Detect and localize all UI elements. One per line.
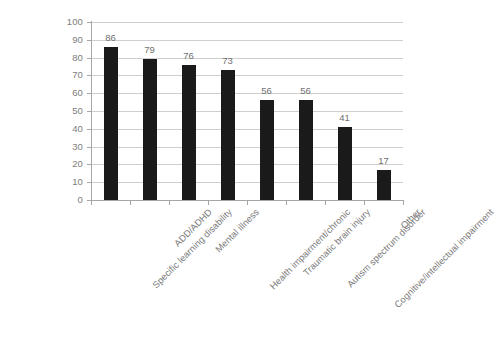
x-tick-mark: [208, 200, 209, 205]
y-tick-label-90: 90: [53, 35, 83, 45]
x-tick-mark: [130, 200, 131, 205]
bar: [299, 100, 313, 200]
x-tick-mark: [403, 200, 404, 205]
bar-value-label: 17: [369, 156, 399, 166]
y-tick-label-70: 70: [53, 70, 83, 80]
y-tick-label-100: 100: [53, 17, 83, 27]
bar-value-label: 56: [291, 86, 321, 96]
gridline-50: [91, 111, 403, 112]
bar: [143, 59, 157, 200]
y-tick-label-10: 10: [53, 177, 83, 187]
bar-value-label: 41: [330, 113, 360, 123]
x-tick-mark: [91, 200, 92, 205]
y-tick-label-40: 40: [53, 124, 83, 134]
bar: [221, 70, 235, 200]
x-tick-mark: [169, 200, 170, 205]
bar: [338, 127, 352, 200]
gridline-70: [91, 75, 403, 76]
gridline-100: [91, 22, 403, 23]
x-tick-mark: [364, 200, 365, 205]
bar: [377, 170, 391, 200]
gridline-10: [91, 182, 403, 183]
gridline-60: [91, 93, 403, 94]
bar-value-label: 86: [96, 33, 126, 43]
gridline-30: [91, 147, 403, 148]
category-label: Health impairment/chronic: [267, 207, 351, 291]
bar-value-label: 79: [135, 45, 165, 55]
bar: [104, 47, 118, 200]
y-axis-line: [91, 21, 92, 201]
gridline-90: [91, 40, 403, 41]
x-tick-mark: [325, 200, 326, 205]
x-tick-mark: [286, 200, 287, 205]
bar-value-label: 73: [213, 56, 243, 66]
y-tick-label-30: 30: [53, 142, 83, 152]
gridline-40: [91, 129, 403, 130]
bar-value-label: 56: [252, 86, 282, 96]
gridline-80: [91, 58, 403, 59]
y-tick-label-0: 0: [53, 195, 83, 205]
gridline-20: [91, 164, 403, 165]
y-tick-label-20: 20: [53, 159, 83, 169]
bar: [182, 65, 196, 200]
y-tick-label-60: 60: [53, 88, 83, 98]
y-tick-label-80: 80: [53, 53, 83, 63]
bar-value-label: 76: [174, 51, 204, 61]
bar: [260, 100, 274, 200]
x-tick-mark: [247, 200, 248, 205]
y-tick-label-50: 50: [53, 106, 83, 116]
